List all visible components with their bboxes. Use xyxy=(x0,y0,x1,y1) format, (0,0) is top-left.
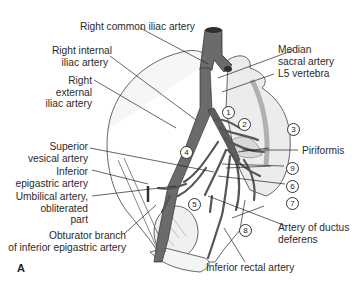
label-inferior-rectal-artery: Inferior rectal artery xyxy=(206,262,294,274)
label-umbilical-artery-obliterated: Umbilical artery, obliterated part xyxy=(10,191,88,226)
callout-7: 7 xyxy=(286,197,299,210)
callout-9: 9 xyxy=(286,162,299,175)
panel-label: A xyxy=(17,262,25,274)
label-right-external-iliac-artery: Right external iliac artery xyxy=(40,75,92,110)
callout-6: 6 xyxy=(286,180,299,193)
pelvic-arteries-figure: Right common iliac artery Right internal… xyxy=(0,0,359,288)
label-obturator-branch: Obturator branch of inferior epigastric … xyxy=(8,230,126,253)
callout-3: 3 xyxy=(287,123,300,136)
callout-4: 4 xyxy=(180,146,193,159)
aorta-cut-end xyxy=(205,27,222,33)
label-inferior-epigastric-artery: Inferior epigastric artery xyxy=(10,166,88,189)
callout-1: 1 xyxy=(222,106,235,119)
callout-5: 5 xyxy=(188,198,201,211)
label-median-sacral-artery: Median sacral artery xyxy=(278,44,334,67)
callout-2: 2 xyxy=(238,118,251,131)
label-superior-vesical-artery: Superior vesical artery xyxy=(20,141,88,164)
label-right-common-iliac-artery: Right common iliac artery xyxy=(80,21,195,33)
label-artery-of-ductus-deferens: Artery of ductus deferens xyxy=(278,222,349,245)
common-iliac-artery xyxy=(200,30,232,72)
label-piriformis: Piriformis xyxy=(302,145,344,157)
label-l5-vertebra: L5 vertebra xyxy=(278,68,330,80)
callout-8: 8 xyxy=(239,224,252,237)
label-right-internal-iliac-artery: Right internal iliac artery xyxy=(52,45,108,68)
